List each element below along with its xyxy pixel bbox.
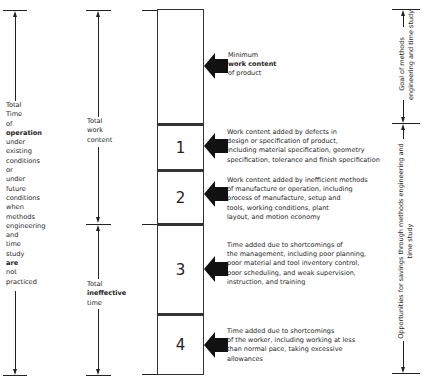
description-block-4: Time added due to shortcomings of the wo…	[227, 327, 355, 364]
description-block-1: Work content added by defects in design …	[227, 128, 380, 165]
dimension-line	[403, 15, 404, 27]
dimension-line	[403, 129, 404, 139]
block-minimum-work-content	[157, 9, 204, 124]
description-block-2: Work content added by inefficient method…	[227, 176, 368, 222]
total-time-label: Total Time of operation under existing c…	[6, 101, 45, 287]
opportunities-label: Opportunities for savings through method…	[397, 141, 414, 341]
block-number: 1	[176, 139, 186, 157]
block-3: 3	[157, 224, 204, 314]
goal-label: Goal of methods engineering and time stu…	[398, 28, 415, 100]
middle-reference-tick	[142, 224, 157, 225]
bottom-tick	[3, 375, 27, 376]
block-1: 1	[157, 124, 204, 170]
divider-tick	[392, 123, 420, 124]
dimension-line	[15, 291, 16, 369]
dimension-line	[98, 147, 99, 218]
top-tick	[392, 9, 420, 10]
total-work-content-label: Total work content	[87, 117, 112, 145]
block-pointer-arrow-icon	[204, 181, 228, 207]
dimension-line	[403, 341, 404, 367]
bottom-reference-tick	[142, 374, 157, 375]
description-block-3: Time added due to shortcomings of the ma…	[227, 241, 366, 287]
bottom-tick	[86, 375, 111, 376]
block-number: 4	[176, 336, 186, 354]
block-pointer-arrow-icon	[204, 256, 228, 282]
dimension-line	[98, 230, 99, 279]
total-ineffective-time-label: Total ineffective time	[87, 280, 126, 308]
description-minimum-work-content: Minimum work content of product	[228, 51, 276, 79]
block-number: 3	[176, 261, 186, 279]
block-number: 2	[176, 189, 186, 207]
block-pointer-arrow-icon	[204, 133, 228, 159]
dimension-line	[15, 15, 16, 101]
dimension-line	[98, 15, 99, 117]
block-pointer-arrow-icon	[204, 332, 228, 358]
dimension-line	[403, 100, 404, 117]
block-2: 2	[157, 170, 204, 224]
top-reference-tick	[142, 10, 157, 11]
dimension-line	[98, 309, 99, 369]
arrow-down-icon	[96, 217, 100, 223]
block-4: 4	[157, 314, 204, 375]
block-pointer-arrow-icon	[204, 53, 228, 79]
bottom-tick	[392, 373, 420, 374]
